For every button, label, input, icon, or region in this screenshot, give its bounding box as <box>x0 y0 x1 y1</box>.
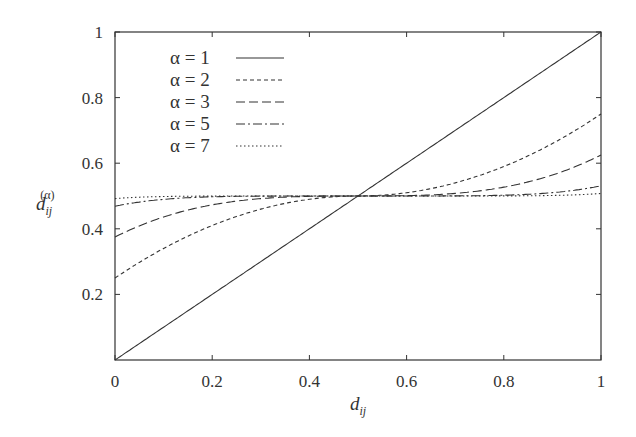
x-tick-label: 1 <box>597 372 606 391</box>
tick-labels: 00.20.40.60.810.20.40.60.81 <box>82 23 606 391</box>
y-tick-label: 0.6 <box>82 154 103 173</box>
legend-label: α = 7 <box>170 135 210 156</box>
legend-label: α = 2 <box>170 69 210 90</box>
legend-label: α = 5 <box>170 113 210 134</box>
chart: 00.20.40.60.810.20.40.60.81 α = 1α = 2α … <box>0 0 636 437</box>
y-tick-label: 0.2 <box>82 285 103 304</box>
legend-label: α = 3 <box>170 91 210 112</box>
y-tick-label: 0.8 <box>82 89 103 108</box>
x-tick-label: 0.4 <box>299 372 321 391</box>
legend: α = 1α = 2α = 3α = 5α = 7 <box>170 47 284 156</box>
x-tick-label: 0.2 <box>202 372 223 391</box>
y-tick-label: 1 <box>95 23 104 42</box>
x-tick-label: 0.6 <box>396 372 417 391</box>
y-axis-label: dij(α) <box>36 188 54 218</box>
legend-label: α = 1 <box>170 47 210 68</box>
x-tick-label: 0 <box>111 372 120 391</box>
y-tick-label: 0.4 <box>82 220 104 239</box>
x-axis-label: dij <box>350 393 367 418</box>
x-tick-label: 0.8 <box>493 372 514 391</box>
